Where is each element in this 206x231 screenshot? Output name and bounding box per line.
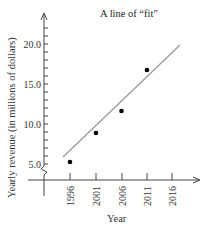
- data-points: [68, 68, 150, 165]
- data-point: [94, 131, 99, 136]
- data-point: [68, 160, 73, 165]
- y-tick-label: 15.0: [24, 79, 42, 90]
- x-tick-label: 1996: [65, 186, 76, 206]
- x-axis-label: Year: [107, 213, 127, 224]
- chart-title: A line of “fit”: [100, 8, 158, 19]
- x-tick-label: 2011: [142, 186, 153, 206]
- x-axis: [28, 173, 200, 183]
- y-tick-label: 5.0: [29, 159, 42, 170]
- fit-line: [63, 45, 180, 157]
- x-tick-label: 2001: [91, 186, 102, 206]
- y-tick-label: 20.0: [24, 39, 42, 50]
- data-point: [119, 109, 124, 114]
- data-point: [145, 68, 150, 73]
- x-tick-label: 2016: [167, 186, 178, 206]
- chart-canvas: A line of “fit” Yearly revenue (in milli…: [0, 0, 206, 231]
- x-tick-label: 2006: [117, 186, 128, 206]
- y-axis-label: Yearly revenue (in millions of dollars): [6, 37, 18, 198]
- y-axis: [41, 13, 48, 196]
- y-tick-label: 10.0: [24, 119, 42, 130]
